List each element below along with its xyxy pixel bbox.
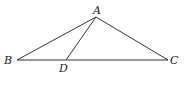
- segment-AB: [17, 17, 96, 60]
- diagram-svg: A B C D: [0, 0, 185, 87]
- segment-AC: [96, 17, 168, 60]
- label-D: D: [58, 62, 68, 75]
- label-C: C: [170, 54, 179, 67]
- segment-AD: [66, 17, 96, 60]
- label-A: A: [92, 4, 101, 17]
- label-B: B: [3, 54, 12, 67]
- triangle-diagram: A B C D: [0, 0, 185, 87]
